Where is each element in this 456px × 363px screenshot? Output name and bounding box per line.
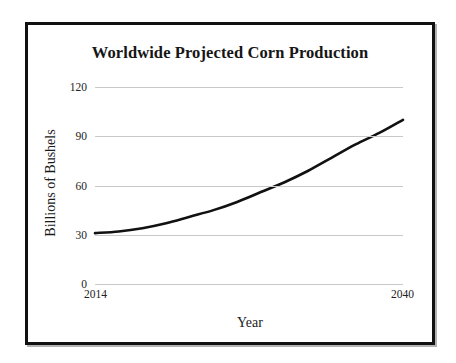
x-axis-title: Year: [95, 315, 405, 331]
y-tick-label-30: 30: [76, 229, 88, 241]
plot-area: 030609012020142040: [95, 87, 403, 284]
y-tick-label-60: 60: [76, 180, 88, 192]
figure-frame: Worldwide Projected Corn Production Bill…: [25, 22, 435, 345]
gridline-y-120: [95, 87, 403, 88]
gridline-y-60: [95, 186, 403, 187]
chart-title: Worldwide Projected Corn Production: [28, 43, 432, 63]
y-tick-label-120: 120: [70, 81, 87, 93]
y-tick-label-90: 90: [76, 130, 88, 142]
y-axis-title: Billions of Bushels: [43, 98, 59, 268]
x-tick-label-2040: 2040: [391, 288, 414, 300]
gridline-y-0: [95, 284, 403, 285]
gridline-y-90: [95, 136, 403, 137]
x-tick-label-2014: 2014: [84, 288, 107, 300]
gridline-y-30: [95, 235, 403, 236]
